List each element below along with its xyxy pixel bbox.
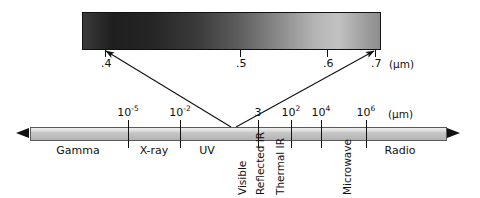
spectrum-tick [291,120,292,148]
spectrum-tick-label: 10-2 [169,106,190,119]
visible-swatch-tick [327,50,328,57]
spectrum-tick-label: 106 [357,106,376,119]
spectrum-band-label-horizontal: Gamma [56,144,99,157]
spectrum-tick-label-exponent: 6 [371,104,376,113]
spectrum-tick-label-exponent: 2 [296,104,301,113]
spectrum-tick-label-base: 10 [357,106,371,119]
spectrum-band-label-horizontal: UV [199,144,215,157]
spectrum-band-label-vertical: Microwave [341,139,353,195]
spectrum-band-label-horizontal: Radio [385,144,416,157]
spectrum-band-label-vertical: Reflected IR [254,132,266,195]
spectrum-tick [180,120,181,148]
visible-swatch-tick [375,50,376,57]
spectrum-arrow-left-icon [16,128,29,138]
visible-swatch-tick-label: .5 [236,57,247,70]
spectrum-tick [321,120,322,148]
spectrum-tick-label-base: 10 [117,106,131,119]
spectrum-tick [128,120,129,148]
visible-swatch-tick [240,50,241,57]
spectrum-tick-label: 10-5 [117,106,138,119]
spectrum-tick-label: 102 [282,106,301,119]
spectrum-tick-label-base: 10 [169,106,183,119]
spectrum-tick-label-exponent: -2 [183,104,190,113]
spectrum-tick-label-base: 10 [312,106,326,119]
spectrum-band-label-vertical: Thermal IR [274,138,286,195]
visible-swatch-tick-label: .6 [323,57,334,70]
visible-swatch-tick-label: .4 [101,57,112,70]
electromagnetic-spectrum-figure: .4.5.6.7 (µm) 10-510-23102104106 (µm) Ga… [0,0,480,198]
spectrum-bar [30,127,447,141]
visible-light-gradient-bar [82,12,381,50]
spectrum-band-label-vertical: Visible [236,161,248,195]
spectrum-tick-label-exponent: -5 [131,104,138,113]
visible-swatch-unit-label: (µm) [389,58,414,70]
spectrum-tick [366,120,367,148]
spectrum-arrow-right-icon [447,128,460,138]
spectrum-tick-label: 3 [255,106,262,119]
spectrum-tick-label-base: 10 [282,106,296,119]
spectrum-unit-label: (µm) [388,108,413,120]
spectrum-band-label-horizontal: X-ray [140,144,169,157]
spectrum-tick-label-exponent: 4 [326,104,331,113]
visible-swatch-tick-label: .7 [371,57,382,70]
spectrum-tick-label-base: 3 [255,106,262,119]
visible-swatch-tick [105,50,106,57]
spectrum-tick-label: 104 [312,106,331,119]
